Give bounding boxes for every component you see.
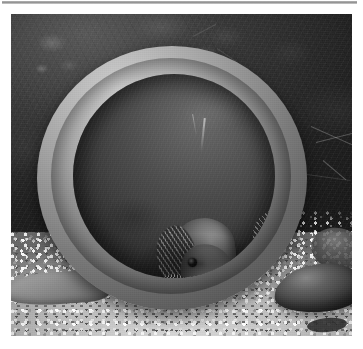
figure-caption xyxy=(11,338,352,348)
horizontal-rule xyxy=(2,1,357,4)
page xyxy=(0,0,363,349)
ceramic-pipe xyxy=(37,46,307,310)
aquarium-photograph xyxy=(11,14,352,336)
pipe-interior xyxy=(73,74,275,278)
